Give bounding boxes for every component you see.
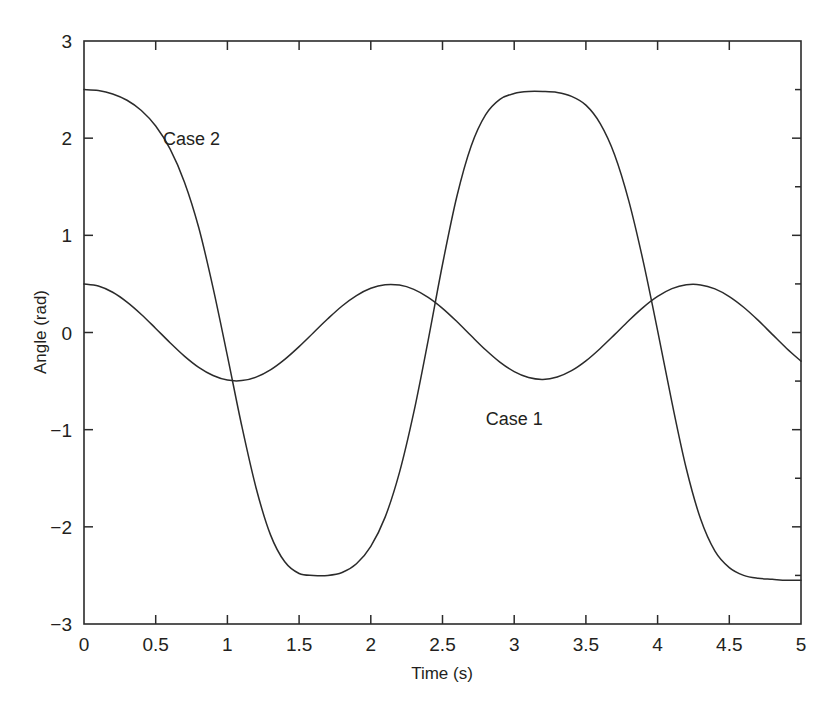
series-curve-case-1 bbox=[84, 284, 801, 381]
series-annotation-group: Case 1Case 2 bbox=[163, 129, 543, 429]
x-tick-label-9: 4.5 bbox=[716, 634, 742, 655]
x-tick-label-5: 2.5 bbox=[429, 634, 455, 655]
y-axis-ticks-left bbox=[84, 138, 93, 527]
x-axis-tick-labels: 00.511.522.533.544.55 bbox=[79, 634, 807, 655]
x-tick-label-8: 4 bbox=[652, 634, 663, 655]
y-tick-label-0: −3 bbox=[50, 614, 72, 635]
y-axis-title: Angle (rad) bbox=[31, 290, 50, 374]
x-tick-label-1: 0.5 bbox=[142, 634, 168, 655]
y-tick-label-6: 3 bbox=[61, 31, 72, 52]
y-tick-label-5: 2 bbox=[61, 128, 72, 149]
x-tick-label-0: 0 bbox=[79, 634, 90, 655]
figure-container: 00.511.522.533.544.55 −3−2−10123 Case 1C… bbox=[0, 0, 840, 709]
x-axis-ticks-top bbox=[156, 41, 730, 50]
data-series-group bbox=[84, 90, 801, 581]
x-tick-label-7: 3.5 bbox=[573, 634, 599, 655]
x-tick-label-4: 2 bbox=[366, 634, 377, 655]
y-axis-tick-labels: −3−2−10123 bbox=[50, 31, 72, 635]
y-axis-ticks-right bbox=[792, 90, 801, 576]
series-curve-case-2 bbox=[84, 90, 801, 581]
x-tick-label-2: 1 bbox=[222, 634, 233, 655]
x-axis-ticks-bottom bbox=[156, 615, 730, 624]
x-tick-label-3: 1.5 bbox=[286, 634, 312, 655]
y-tick-label-1: −2 bbox=[50, 517, 72, 538]
angle-vs-time-chart: 00.511.522.533.544.55 −3−2−10123 Case 1C… bbox=[0, 0, 840, 709]
x-tick-label-6: 3 bbox=[509, 634, 520, 655]
y-tick-label-4: 1 bbox=[61, 225, 72, 246]
y-tick-label-2: −1 bbox=[50, 420, 72, 441]
x-tick-label-10: 5 bbox=[796, 634, 807, 655]
y-tick-label-3: 0 bbox=[61, 323, 72, 344]
series-label-case-2: Case 2 bbox=[163, 129, 220, 149]
x-axis-title: Time (s) bbox=[411, 664, 473, 683]
series-label-case-1: Case 1 bbox=[486, 409, 543, 429]
